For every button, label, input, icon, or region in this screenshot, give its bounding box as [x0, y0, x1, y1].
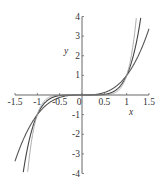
x-tick-label: -0.5	[52, 97, 67, 107]
y-tick-label: -3	[72, 149, 80, 159]
x-tick-label: -1.5	[7, 97, 22, 107]
x-tick-label: 0	[77, 97, 82, 107]
y-tick-label: -4	[72, 169, 80, 179]
x-tick-label: 1.5	[143, 97, 155, 107]
x-tick-label: 1	[124, 97, 129, 107]
y-tick-label: 1	[75, 70, 80, 80]
x-tick-label: 0.5	[98, 97, 110, 107]
y-tick-label: 2	[75, 51, 80, 61]
x-axis-label: x	[128, 107, 134, 117]
x-tick-label: -1	[33, 97, 41, 107]
y-tick-label: 3	[75, 31, 80, 41]
y-tick-label: 4	[75, 12, 80, 22]
power-functions-plot: -1.5-1-0.500.511.5 -4-3-2-11234 x y	[0, 0, 162, 184]
y-axis-label: y	[63, 46, 69, 56]
y-tick-label: -1	[72, 110, 80, 120]
y-tick-label: -2	[72, 129, 80, 139]
